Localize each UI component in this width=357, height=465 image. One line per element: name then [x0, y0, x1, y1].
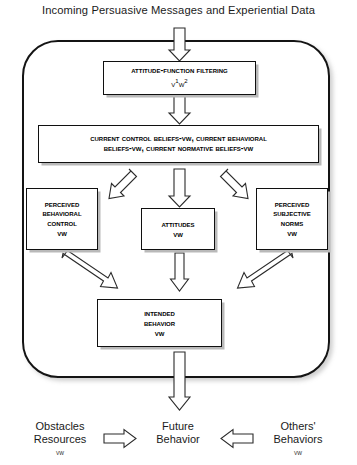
label-others-line2: Behaviors — [274, 433, 323, 445]
box-intended-behavior-line2: Behavior — [144, 318, 175, 328]
box-perceived-subjective-norms[interactable]: Perceived Subjective Norms vw — [256, 188, 328, 250]
box-attitude-function-filtering-title: Attitude-Function Filtering — [131, 66, 228, 76]
label-others-line1: Others' — [280, 420, 315, 432]
label-obstacles-vw: vw — [14, 448, 106, 457]
box-intended-behavior-line1: Intended — [144, 308, 175, 318]
box-perceived-behavioral-control-line3: Control — [47, 219, 77, 229]
box-attitude-function-filtering[interactable]: Attitude-Function Filtering v1w2 — [103, 61, 256, 95]
label-obstacles-resources: Obstacles Resources vw — [14, 420, 106, 457]
diagram-heading: Incoming Persuasive Messages and Experie… — [0, 4, 357, 16]
box-perceived-behavioral-control[interactable]: Perceived Behavioral Control vw — [26, 188, 98, 250]
box-intended-behavior[interactable]: Intended Behavior vw — [97, 299, 222, 347]
box-attitudes[interactable]: Attitudes vw — [141, 208, 215, 250]
box-attitudes-vw: vw — [173, 229, 183, 239]
box-perceived-behavioral-control-vw: vw — [57, 229, 67, 239]
box-perceived-behavioral-control-line1: Perceived — [45, 200, 80, 210]
box-attitudes-line1: Attitudes — [161, 219, 194, 229]
label-future-line2: Behavior — [156, 433, 199, 445]
box-current-beliefs[interactable]: Current Control Beliefs-vw, Current Beha… — [38, 125, 319, 163]
label-future-line1: Future — [162, 420, 194, 432]
box-current-beliefs-line2: Beliefs-vw, Current Normative Beliefs-vw — [104, 144, 253, 154]
box-perceived-subjective-norms-line3: Norms — [281, 219, 303, 229]
box-current-beliefs-line1: Current Control Beliefs-vw, Current Beha… — [90, 134, 267, 144]
label-future-behavior: Future Behavior — [130, 420, 226, 447]
diagram-canvas: Incoming Persuasive Messages and Experie… — [0, 0, 357, 465]
box-perceived-behavioral-control-line2: Behavioral — [42, 209, 81, 219]
label-obstacles-line1: Obstacles — [36, 420, 85, 432]
label-others-vw: vw — [252, 448, 344, 457]
box-perceived-subjective-norms-line2: Subjective — [273, 209, 311, 219]
label-obstacles-line2: Resources — [34, 433, 87, 445]
label-others-behaviors: Others' Behaviors vw — [252, 420, 344, 457]
box-perceived-subjective-norms-line1: Perceived — [275, 200, 310, 210]
box-intended-behavior-vw: vw — [155, 328, 165, 338]
box-perceived-subjective-norms-vw: vw — [287, 229, 297, 239]
box-attitude-function-filtering-notation: v1w2 — [171, 78, 187, 90]
